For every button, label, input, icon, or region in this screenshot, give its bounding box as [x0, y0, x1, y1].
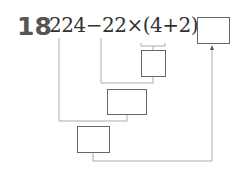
step-box-3[interactable] [77, 126, 110, 153]
problem-number: 18 [17, 14, 52, 39]
answer-box[interactable] [197, 17, 230, 44]
arrow-icon [210, 45, 214, 50]
step-box-2[interactable] [107, 89, 147, 115]
expression: 224−22×(4+2)= [49, 15, 214, 35]
step-box-1[interactable] [141, 50, 166, 77]
